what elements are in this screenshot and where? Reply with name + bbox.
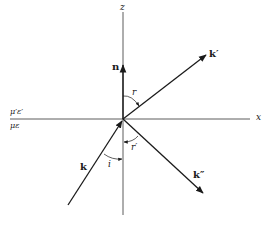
incident-label: k (80, 162, 87, 172)
angle-arc-r (123, 96, 139, 106)
incident-vector (68, 121, 122, 205)
upper-medium-label: μ′ε′ (10, 108, 23, 116)
x-axis-label: x (256, 113, 261, 122)
angle-r-prime-label: r′ (131, 143, 137, 152)
angle-i-label: i (108, 160, 111, 169)
reflected-vector (123, 119, 203, 193)
z-axis-label: z (120, 3, 125, 12)
normal-label: n (112, 62, 119, 72)
refracted-label: k′ (209, 49, 219, 59)
lower-medium-label: με (10, 122, 20, 130)
angle-r-label: r (132, 88, 136, 97)
angle-arc-i (104, 154, 122, 159)
diagram-canvas (0, 0, 271, 225)
reflected-label: k″ (193, 170, 204, 180)
